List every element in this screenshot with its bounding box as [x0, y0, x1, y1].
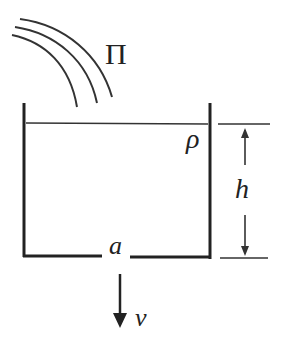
- velocity-label: v: [135, 303, 147, 332]
- tank-diagram: Π ρ h a v: [0, 0, 286, 352]
- stream-arc-1: [12, 35, 77, 107]
- velocity-arrow-icon: [113, 313, 127, 328]
- density-label: ρ: [185, 123, 199, 154]
- arrow-up-icon: [241, 128, 249, 138]
- fluid-surface: [26, 123, 208, 124]
- hole-area-label: a: [109, 231, 122, 260]
- stream-label: Π: [105, 37, 127, 70]
- stream-arc-2: [15, 27, 97, 103]
- incoming-stream: [12, 19, 112, 107]
- height-label: h: [235, 173, 249, 204]
- arrow-down-icon: [241, 246, 249, 256]
